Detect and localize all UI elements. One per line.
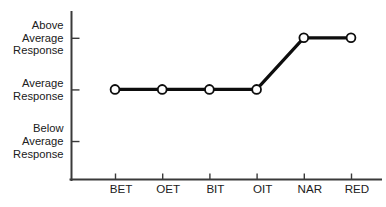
response-series-markers: BET: Average ResponseOET: Average Respon… <box>111 33 356 93</box>
x-tick-label: OET <box>156 182 180 195</box>
data-point-marker: BET: Average Response <box>111 85 120 94</box>
x-axis-labels: BETOETBITOITNARRED <box>110 182 370 195</box>
x-tick-label: OIT <box>253 182 272 195</box>
x-tick-label: BIT <box>206 182 224 195</box>
x-tick-label: BET <box>110 182 133 195</box>
data-point-marker: OET: Average Response <box>158 85 167 94</box>
y-tick-label: BelowAverageResponse <box>13 122 64 159</box>
x-tick-label: NAR <box>298 182 322 195</box>
data-point-marker: OIT: Average Response <box>252 85 261 94</box>
data-point-marker: NAR: Above Average Response <box>299 33 308 42</box>
chart-container: AboveAverageResponseAverageResponseBelow… <box>0 0 386 207</box>
y-tick-label: AboveAverageResponse <box>13 19 63 56</box>
y-axis-labels: AboveAverageResponseAverageResponseBelow… <box>13 19 64 159</box>
x-tick-label: RED <box>345 182 369 195</box>
response-series-line <box>115 38 351 90</box>
y-tick-label: AverageResponse <box>13 77 63 102</box>
data-point-marker: BIT: Average Response <box>205 85 214 94</box>
line-chart: AboveAverageResponseAverageResponseBelow… <box>0 0 386 207</box>
y-axis-tick-marks <box>72 38 80 141</box>
data-point-marker: RED: Above Average Response <box>347 33 356 42</box>
